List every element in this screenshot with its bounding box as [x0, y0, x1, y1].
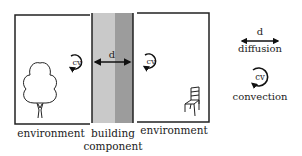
legend-convection: cv convection [233, 68, 288, 102]
building-label-line2: component [83, 140, 143, 152]
building-component [92, 13, 133, 123]
svg-text:d: d [257, 26, 264, 37]
convection-icon-left: cv [71, 55, 82, 69]
legend: d diffusion cv convection [233, 26, 288, 102]
right-environment-label: environment [140, 124, 208, 136]
svg-text:cv: cv [255, 72, 265, 82]
legend-diffusion: d diffusion [238, 26, 282, 54]
svg-text:convection: convection [233, 91, 288, 102]
svg-text:cv: cv [73, 58, 82, 67]
tree-icon [23, 63, 56, 118]
chair-icon [185, 87, 199, 116]
heat-transfer-diagram: cv d cv environment building component e… [0, 0, 302, 156]
svg-text:d: d [109, 49, 116, 60]
svg-text:diffusion: diffusion [238, 43, 282, 54]
left-environment-box [15, 15, 90, 124]
inner-layer [92, 13, 115, 123]
outer-layer [115, 13, 133, 123]
left-environment-label: environment [17, 127, 85, 139]
convection-icon-right: cv [145, 54, 156, 68]
building-label-line1: building [91, 127, 135, 139]
svg-text:cv: cv [147, 57, 156, 66]
